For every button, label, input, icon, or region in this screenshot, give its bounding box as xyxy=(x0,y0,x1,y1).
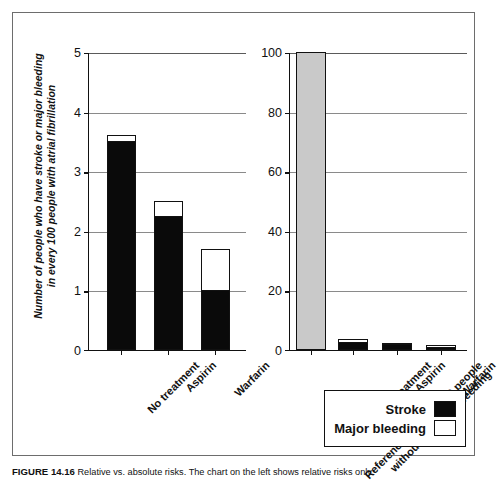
bar-segment-major-bleeding xyxy=(201,249,230,291)
left-ytick-1 xyxy=(84,291,89,292)
y-axis-title-line1: Number of people who have stroke or majo… xyxy=(32,53,44,318)
figure-frame: Number of people who have stroke or majo… xyxy=(12,12,475,456)
bar-aspirin[interactable] xyxy=(154,201,183,350)
bar-warfarin[interactable] xyxy=(201,249,230,350)
left-xtick-0 xyxy=(121,350,122,355)
right-ytick-label-0: 0 xyxy=(256,344,282,358)
legend: Stroke Major bleeding xyxy=(324,390,466,447)
right-xtick-3 xyxy=(441,350,442,355)
legend-label-major-bleeding: Major bleeding xyxy=(334,421,426,436)
right-xtick-1 xyxy=(353,350,354,355)
right-xtick-2 xyxy=(397,350,398,355)
bar-segment-stroke xyxy=(107,141,136,350)
left-ytick-label-2: 2 xyxy=(59,225,81,239)
right-ytick-label-20: 20 xyxy=(256,284,282,298)
black-square-icon xyxy=(434,401,456,417)
right-ytick-label-40: 40 xyxy=(256,225,282,239)
left-ytick-label-3: 3 xyxy=(59,165,81,179)
legend-item-major-bleeding[interactable]: Major bleeding xyxy=(334,420,456,436)
figure-caption-number: FIGURE 14.16 xyxy=(12,466,75,477)
y-axis-title-text: Number of people who have stroke or majo… xyxy=(32,53,57,318)
left-ytick-4 xyxy=(84,113,89,114)
left-plot-area xyxy=(88,53,246,351)
figure-caption: FIGURE 14.16 Relative vs. absolute risks… xyxy=(12,466,477,483)
left-gridline-4 xyxy=(89,113,246,114)
right-ytick-60 xyxy=(285,172,290,173)
y-axis-title: Number of people who have stroke or majo… xyxy=(27,21,61,351)
right-ytick-label-80: 80 xyxy=(256,106,282,120)
right-plot-area xyxy=(289,53,467,351)
right-ytick-label-100: 100 xyxy=(256,46,282,60)
left-xtick-2 xyxy=(215,350,216,355)
left-ytick-label-1: 1 xyxy=(59,284,81,298)
right-ytick-label-60: 60 xyxy=(256,165,282,179)
white-square-icon xyxy=(434,420,456,436)
left-gridline-5 xyxy=(89,53,246,54)
right-ytick-20 xyxy=(285,291,290,292)
right-ytick-80 xyxy=(285,113,290,114)
legend-label-stroke: Stroke xyxy=(386,402,426,417)
bar-aspirin[interactable] xyxy=(382,343,412,351)
left-xtick-1 xyxy=(168,350,169,355)
left-ytick-3 xyxy=(84,172,89,173)
bar-segment-stroke xyxy=(201,290,230,350)
bar-no-treatment[interactable] xyxy=(338,339,368,350)
bar-no-treatment[interactable] xyxy=(107,135,136,350)
left-ytick-5 xyxy=(84,53,89,54)
y-axis-title-line2: in every 100 people with atrial fibrilla… xyxy=(44,85,56,287)
left-ytick-label-5: 5 xyxy=(59,46,81,60)
right-ytick-40 xyxy=(285,232,290,233)
right-ytick-0 xyxy=(285,350,290,351)
legend-item-stroke[interactable]: Stroke xyxy=(334,401,456,417)
right-ytick-100 xyxy=(285,53,290,54)
bar-segment-stroke xyxy=(154,216,183,350)
left-ytick-label-4: 4 xyxy=(59,106,81,120)
bar-reference-group[interactable] xyxy=(296,52,326,350)
right-xtick-0 xyxy=(311,350,312,355)
left-ytick-2 xyxy=(84,232,89,233)
figure-caption-text: Relative vs. absolute risks. The chart o… xyxy=(77,467,373,477)
bar-segment-stroke xyxy=(338,342,368,350)
relative-risk-chart: 5 4 3 2 1 0 xyxy=(59,21,249,441)
left-ytick-label-0: 0 xyxy=(59,344,81,358)
absolute-risk-chart: 100 80 60 40 20 0 xyxy=(256,21,471,441)
left-ytick-0 xyxy=(84,350,89,351)
bar-segment-major-bleeding xyxy=(154,201,183,216)
